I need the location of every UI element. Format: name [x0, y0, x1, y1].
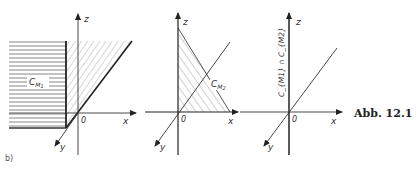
intersection-label: C_{M1} ∩ C_{M2}	[277, 27, 286, 97]
origin-label: 0	[81, 116, 86, 125]
z-axis-label: z	[182, 17, 188, 27]
x-axis-label: x	[330, 116, 337, 126]
x-axis-label: x	[227, 116, 234, 126]
figure-canvas: z x y 0 CM1 z x y 0 CM2 z x y 0 C_{M1} ∩…	[0, 0, 420, 169]
figure-caption: Abb. 12.1	[353, 107, 412, 120]
origin-label: 0	[292, 115, 297, 124]
x-axis-label: x	[122, 116, 129, 126]
z-axis-label: z	[83, 14, 89, 24]
panel-2: z x y 0 CM2	[145, 13, 238, 155]
y-axis-label: y	[267, 142, 274, 152]
origin-label: 0	[181, 115, 186, 124]
z-axis-label: z	[295, 17, 301, 27]
y-axis-label: y	[159, 142, 166, 152]
panel-1: z x y 0 CM1	[9, 14, 136, 155]
part-label: b)	[5, 154, 13, 163]
panel-3: z x y 0 C_{M1} ∩ C_{M2}	[240, 13, 342, 155]
y-axis	[264, 48, 337, 146]
y-axis-label: y	[59, 142, 66, 152]
